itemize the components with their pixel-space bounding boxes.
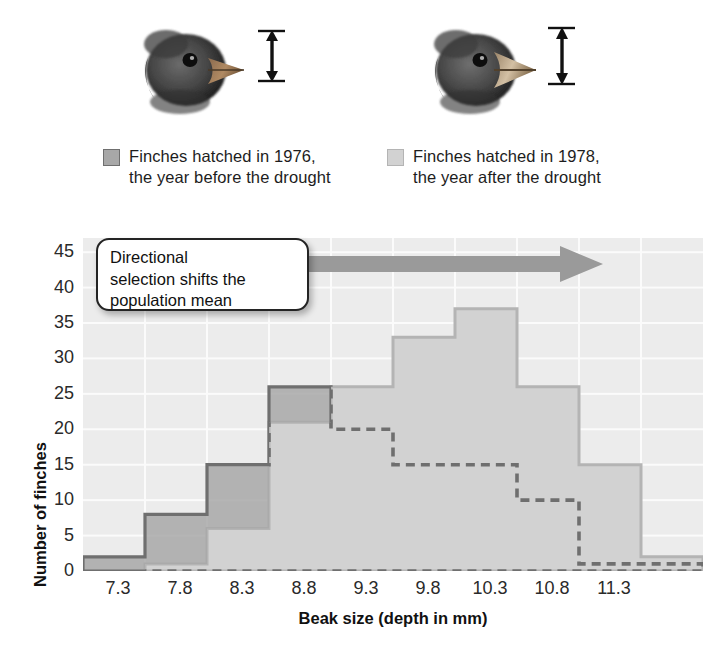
chart-legend: Finches hatched in 1976, the year before… — [0, 140, 726, 200]
y-tick-label: 40 — [24, 278, 74, 296]
finch-photo-1976 — [140, 18, 290, 123]
x-tick-label: 8.8 — [269, 578, 339, 599]
legend-label-1978: Finches hatched in 1978, the year after … — [413, 146, 601, 188]
beak-depth-arrow-1978-icon — [544, 26, 578, 86]
finch-head-1976-image — [140, 18, 258, 118]
x-tick-label: 9.3 — [331, 578, 401, 599]
y-tick-label: 45 — [24, 242, 74, 260]
y-tick-label: 15 — [24, 455, 74, 473]
y-tick-label: 20 — [24, 419, 74, 437]
y-tick-label: 35 — [24, 313, 74, 331]
finch-photo-row — [0, 0, 726, 130]
x-axis-ticks: 7.37.88.38.89.39.810.310.811.3 — [83, 578, 703, 606]
beak-depth-arrow-1976-icon — [254, 26, 288, 86]
callout-box: Directional selection shifts the populat… — [96, 238, 309, 311]
y-tick-label: 0 — [24, 561, 74, 579]
legend-item-1976: Finches hatched in 1976, the year before… — [103, 146, 331, 188]
legend-swatch-1976-icon — [103, 149, 120, 166]
finch-head-1978-image — [430, 18, 548, 118]
x-tick-label: 8.3 — [207, 578, 277, 599]
legend-swatch-1978-icon — [387, 149, 404, 166]
x-tick-label: 9.8 — [393, 578, 463, 599]
finch-photo-1978 — [430, 18, 580, 123]
x-tick-label: 10.8 — [517, 578, 587, 599]
legend-item-1978: Finches hatched in 1978, the year after … — [387, 146, 601, 188]
legend-label-1976: Finches hatched in 1976, the year before… — [129, 146, 331, 188]
x-tick-label: 10.3 — [455, 578, 525, 599]
y-tick-label: 25 — [24, 384, 74, 402]
x-tick-label: 11.3 — [579, 578, 649, 599]
x-tick-label: 7.3 — [83, 578, 153, 599]
y-tick-label: 5 — [24, 526, 74, 544]
y-tick-label: 30 — [24, 348, 74, 366]
y-axis-ticks: 051015202530354045 — [22, 205, 74, 585]
x-axis-label: Beak size (depth in mm) — [83, 609, 703, 628]
x-tick-label: 7.8 — [145, 578, 215, 599]
y-tick-label: 10 — [24, 490, 74, 508]
